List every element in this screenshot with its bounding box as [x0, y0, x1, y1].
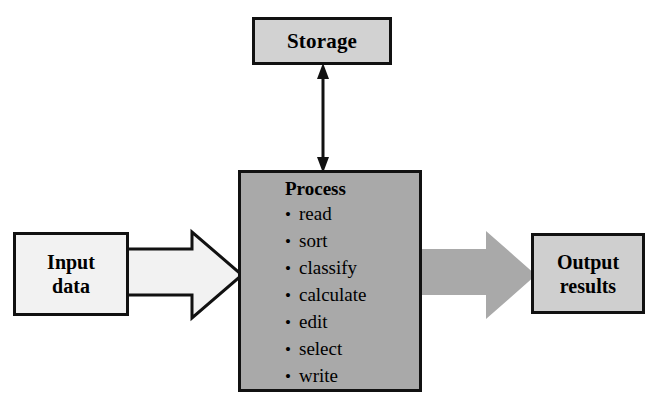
connector-process-output — [416, 228, 538, 322]
list-item-label: read — [299, 203, 332, 224]
node-storage[interactable]: Storage — [252, 17, 392, 65]
list-item-label: calculate — [299, 284, 367, 305]
node-input-data-line2: data — [47, 274, 95, 298]
node-output-results-line1: Output — [557, 250, 619, 274]
bullet-icon: • — [285, 364, 299, 390]
bullet-icon: • — [285, 229, 299, 255]
node-output-results-line2: results — [557, 274, 619, 298]
double-headed-arrow-icon — [305, 63, 341, 173]
node-process-title: Process — [285, 177, 367, 200]
list-item-label: sort — [299, 230, 328, 251]
list-item: •select — [285, 336, 367, 363]
block-arrow-right-icon — [416, 228, 538, 322]
node-storage-label: Storage — [287, 29, 357, 54]
connector-storage-process — [305, 63, 341, 173]
bullet-icon: • — [285, 283, 299, 309]
node-input-data[interactable]: Input data — [13, 232, 129, 316]
node-input-data-line1: Input — [47, 250, 95, 274]
list-item-label: write — [299, 365, 338, 386]
node-output-results[interactable]: Output results — [531, 233, 645, 314]
block-arrow-right-icon — [120, 228, 244, 322]
list-item: •write — [285, 363, 367, 390]
list-item: •sort — [285, 228, 367, 255]
list-item: •read — [285, 201, 367, 228]
list-item: •edit — [285, 309, 367, 336]
connector-input-process — [120, 228, 244, 322]
bullet-icon: • — [285, 310, 299, 336]
list-item-label: classify — [299, 257, 357, 278]
node-process-content: Process •read •sort •classify •calculate… — [285, 177, 367, 390]
list-item-label: select — [299, 338, 342, 359]
list-item-label: edit — [299, 311, 328, 332]
node-input-data-label: Input data — [47, 250, 95, 298]
list-item: •classify — [285, 255, 367, 282]
node-process-item-list: •read •sort •classify •calculate •edit •… — [285, 201, 367, 390]
node-output-results-label: Output results — [557, 250, 619, 298]
node-process[interactable]: Process •read •sort •classify •calculate… — [238, 170, 422, 392]
bullet-icon: • — [285, 337, 299, 363]
list-item: •calculate — [285, 282, 367, 309]
bullet-icon: • — [285, 256, 299, 282]
diagram-canvas: Storage Input data Process •read — [0, 0, 664, 413]
bullet-icon: • — [285, 202, 299, 228]
